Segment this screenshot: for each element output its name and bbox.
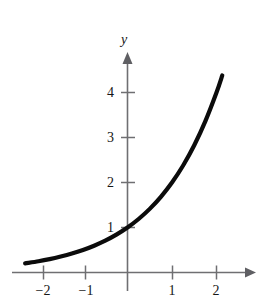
x-tick-label-neg1: −1 (79, 283, 94, 298)
y-axis-label: y (119, 32, 128, 47)
y-tick-label-2: 2 (107, 175, 114, 190)
y-tick-label-4: 4 (107, 85, 114, 100)
x-tick-label-1: 1 (169, 283, 176, 298)
x-tick-label-2: 2 (213, 283, 220, 298)
plot-svg: y −2 −1 1 2 1 2 3 4 (0, 0, 263, 302)
x-axis-arrow-icon (245, 268, 256, 278)
y-tick-label-1: 1 (107, 220, 114, 235)
exponential-graph-figure: y −2 −1 1 2 1 2 3 4 (0, 0, 263, 302)
y-axis-arrow-icon (123, 52, 133, 64)
exponential-curve (25, 75, 222, 263)
x-tick-label-neg2: −2 (36, 283, 51, 298)
y-tick-label-3: 3 (107, 130, 114, 145)
